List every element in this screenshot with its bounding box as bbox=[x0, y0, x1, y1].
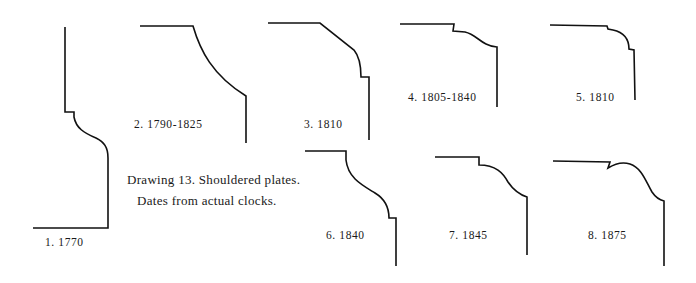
profile-label-8: 8. 1875 bbox=[588, 229, 627, 241]
profile-label-2: 2. 1790-1825 bbox=[134, 118, 203, 130]
profile-label-5: 5. 1810 bbox=[576, 91, 615, 103]
caption-line-1: Drawing 13. Shouldered plates. bbox=[127, 172, 300, 188]
shouldered-plates-drawing: 1. 1770 2. 1790-1825 3. 1810 4. 1805-184… bbox=[0, 0, 696, 283]
caption-line-2: Dates from actual clocks. bbox=[137, 193, 277, 209]
plate-profile-5 bbox=[550, 25, 635, 100]
profile-label-4: 4. 1805-1840 bbox=[408, 91, 477, 103]
profile-label-3: 3. 1810 bbox=[304, 118, 343, 130]
plate-profile-8 bbox=[553, 161, 664, 266]
profile-label-7: 7. 1845 bbox=[449, 229, 488, 241]
plate-profile-1 bbox=[33, 27, 108, 228]
plate-profile-6 bbox=[305, 151, 396, 266]
profile-label-6: 6. 1840 bbox=[326, 229, 365, 241]
profile-label-1: 1. 1770 bbox=[45, 236, 84, 248]
